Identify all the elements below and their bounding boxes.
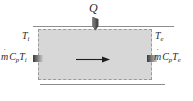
heat-input-label: ˙Q (89, 2, 98, 14)
exit-specific-heat-subscript: p (169, 56, 172, 63)
exit-flux-temperature-subscript: e (178, 56, 181, 63)
exit-flux-temperature-symbol: T (172, 51, 178, 62)
duct-wall-bottom-line (40, 84, 165, 85)
inlet-specific-heat-subscript: p (16, 56, 19, 63)
flow-direction-arrow-icon (76, 56, 110, 63)
inlet-flux-temperature-symbol: T (19, 51, 25, 62)
duct-wall-top-line (33, 26, 174, 27)
inlet-mass-flow-overdot: ˙ (3, 48, 6, 57)
exit-specific-heat-symbol: C (162, 51, 169, 62)
exit-mass-flow-overdot: ˙ (156, 48, 159, 57)
exit-temperature-subscript: e (161, 35, 164, 42)
control-volume-boundary (38, 29, 152, 80)
inlet-temperature-symbol: T (22, 30, 28, 41)
exit-enthalpy-flux-label: ˙mCpTe (154, 52, 181, 62)
q-overdot: ˙ (92, 0, 95, 8)
inlet-flux-temperature-subscript: i (25, 56, 27, 63)
inlet-specific-heat-symbol: C (9, 51, 16, 62)
inlet-enthalpy-flux-label: ˙mCpTi (1, 52, 27, 62)
heat-input-arrow-icon (89, 17, 102, 31)
exit-temperature-label: Te (155, 31, 164, 41)
control-volume-diagram: ˙Q Ti Te ˙mCpTi ˙mCpTe (0, 0, 193, 101)
exit-temperature-symbol: T (155, 30, 161, 41)
inlet-flow-marker (33, 55, 43, 62)
inlet-temperature-subscript: i (28, 35, 30, 42)
inlet-temperature-label: Ti (22, 31, 29, 41)
